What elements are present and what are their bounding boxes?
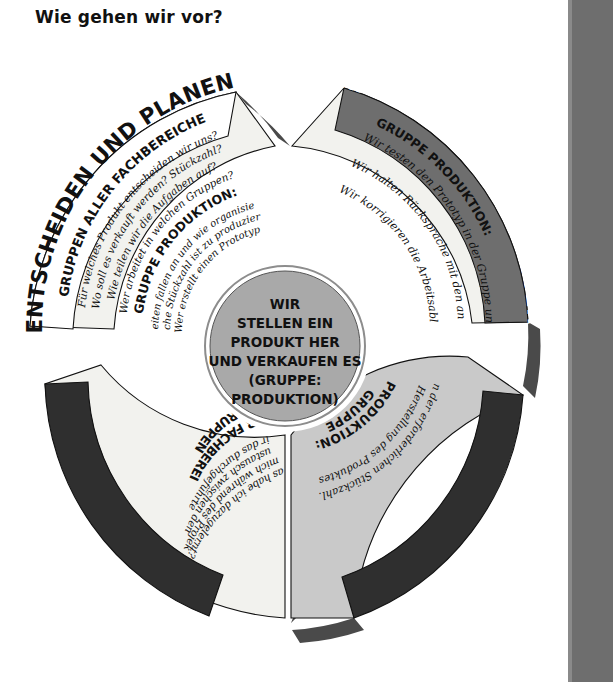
shadow-durchfuehren <box>292 618 364 643</box>
shadow-erproben <box>523 322 541 398</box>
diagram-canvas: Wie gehen wir vor? <box>0 0 613 682</box>
cycle-wheel: ENTSCHEIDEN UND PLANEN GRUPPEN ALLER FAC… <box>0 26 568 682</box>
hub-line-4: (GRUPPE: <box>248 372 321 388</box>
center-circle[interactable]: WIR STELLEN EIN PRODUKT HER UND VERKAUFE… <box>199 260 371 432</box>
hub-line-5: PRODUKTION) <box>231 391 339 407</box>
right-side-bar <box>568 0 613 682</box>
hub-line-1: STELLEN EIN <box>237 315 333 331</box>
hub-line-2: PRODUKT HER <box>230 334 340 350</box>
right-side-bar-edge <box>568 0 572 682</box>
hub-line-0: WIR <box>270 296 301 312</box>
page-title: Wie gehen wir vor? <box>35 7 223 27</box>
hub-line-3: UND VERKAUFEN ES <box>208 353 361 369</box>
